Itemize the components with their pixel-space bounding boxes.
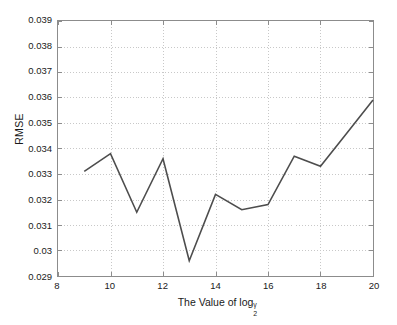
plot-area [57, 20, 374, 277]
x-axis-label-text: The Value of log [178, 296, 254, 308]
y-tick-label: 0.036 [28, 92, 52, 102]
y-tick-label: 0.033 [28, 169, 52, 179]
data-series-line [58, 21, 373, 276]
y-tick-label: 0.03 [34, 247, 53, 257]
x-tick-label: 20 [369, 281, 380, 291]
y-tick-label: 0.029 [28, 272, 52, 282]
x-axis-label-superscript: γ [253, 301, 257, 308]
x-tick-label: 16 [263, 281, 274, 291]
y-tick-label: 0.035 [28, 118, 52, 128]
x-tick-label: 14 [210, 281, 221, 291]
x-axis-label: The Value of log2γ [57, 296, 374, 308]
x-tick-label: 10 [105, 281, 116, 291]
x-tick-label: 18 [316, 281, 327, 291]
chart-figure: RMSE 0.0290.030.0310.0320.0330.0340.0350… [0, 0, 397, 325]
y-tick-label: 0.039 [28, 15, 52, 25]
y-tick-label: 0.034 [28, 144, 52, 154]
series-line-0 [84, 100, 373, 261]
y-tick-label: 0.037 [28, 67, 52, 77]
y-tick-label: 0.031 [28, 221, 52, 231]
x-tick-label: 8 [54, 281, 59, 291]
y-tick-label: 0.038 [28, 41, 52, 51]
y-tick-label: 0.032 [28, 195, 52, 205]
x-tick-label: 12 [157, 281, 168, 291]
x-axis-label-subscript: 2 [253, 310, 257, 317]
y-axis-tick-labels: 0.0290.030.0310.0320.0330.0340.0350.0360… [0, 20, 52, 277]
x-axis-tick-labels: 8101214161820 [57, 281, 374, 295]
